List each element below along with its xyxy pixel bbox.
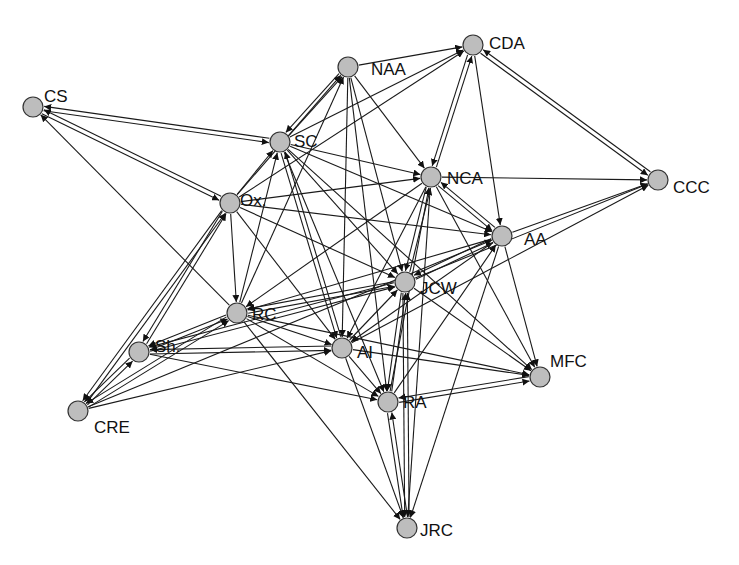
edge-cda-to-aa bbox=[475, 56, 501, 225]
edge-nca-to-cda bbox=[436, 56, 471, 167]
node-circle-icon bbox=[648, 170, 668, 190]
node-circle-icon bbox=[270, 132, 290, 152]
node-circle-icon bbox=[395, 272, 415, 292]
edge-jrc-to-ra bbox=[392, 413, 408, 517]
node-circle-icon bbox=[68, 401, 88, 421]
node-label: AI bbox=[357, 343, 373, 362]
node-circle-icon bbox=[378, 392, 398, 412]
node-label: NAA bbox=[371, 60, 407, 79]
edge-naa-to-jcw bbox=[351, 78, 402, 272]
node-label: JCW bbox=[420, 279, 457, 298]
node-cs: CS bbox=[23, 87, 68, 117]
node-circle-icon bbox=[421, 167, 441, 187]
node-label: RC bbox=[252, 305, 277, 324]
node-circle-icon bbox=[227, 303, 247, 323]
node-label: CDA bbox=[489, 34, 526, 53]
node-circle-icon bbox=[530, 367, 550, 387]
edge-cda-to-ccc bbox=[481, 53, 648, 175]
node-label: JRC bbox=[420, 521, 453, 540]
node-circle-icon bbox=[463, 35, 483, 55]
edge-naa-to-sc bbox=[286, 74, 339, 133]
node-cda: CDA bbox=[463, 34, 526, 55]
node-circle-icon bbox=[129, 342, 149, 362]
edge-aa-to-nca bbox=[441, 182, 495, 227]
edge-nca-to-aa bbox=[438, 186, 492, 231]
edge-ai-to-jrc bbox=[346, 358, 404, 517]
edge-aa-to-ccc bbox=[512, 184, 647, 233]
edge-cre-to-ox bbox=[86, 213, 225, 403]
node-nca: NCA bbox=[421, 167, 484, 188]
node-circle-icon bbox=[220, 193, 240, 213]
edge-sc-to-mfc bbox=[288, 149, 532, 369]
node-label: RA bbox=[403, 393, 427, 412]
node-sc: SC bbox=[270, 132, 318, 152]
edge-cda-to-nca bbox=[432, 55, 467, 166]
node-label: AA bbox=[524, 230, 547, 249]
network-diagram: CSSCNAACDAOx.NCACCCAAJCWRCSh.AIMFCCRERAJ… bbox=[0, 0, 739, 565]
node-naa: NAA bbox=[338, 57, 407, 79]
node-circle-icon bbox=[492, 226, 512, 246]
edge-sc-to-cs bbox=[44, 106, 269, 138]
node-jcw: JCW bbox=[395, 272, 457, 298]
node-ai: AI bbox=[332, 338, 373, 362]
edge-rc-to-cs bbox=[41, 115, 230, 305]
node-ox: Ox. bbox=[220, 191, 266, 213]
node-label: SC bbox=[294, 132, 318, 151]
edge-rc-to-cre bbox=[86, 317, 226, 404]
node-rc: RC bbox=[227, 303, 277, 324]
edge-ox-to-sc bbox=[237, 151, 273, 195]
node-ra: RA bbox=[378, 392, 427, 412]
edge-nca-to-mfc bbox=[436, 187, 534, 368]
node-jrc: JRC bbox=[397, 518, 453, 540]
edge-ox-to-cre bbox=[83, 211, 222, 401]
node-circle-icon bbox=[338, 57, 358, 77]
edge-ra-to-aa bbox=[394, 245, 496, 393]
node-ccc: CCC bbox=[648, 170, 710, 197]
edge-ox-to-naa bbox=[237, 75, 341, 194]
node-sh: Sh. bbox=[129, 337, 181, 362]
edge-rc-to-sc bbox=[240, 153, 278, 303]
edge-cs-to-ox bbox=[42, 114, 219, 200]
edge-naa-to-nca bbox=[355, 76, 425, 168]
edge-ai-to-mfc bbox=[353, 350, 529, 376]
edge-ra-to-jrc bbox=[388, 413, 404, 517]
node-label: CRE bbox=[94, 418, 130, 437]
node-label: Sh. bbox=[155, 337, 181, 356]
edge-layer bbox=[41, 47, 651, 520]
node-label: NCA bbox=[447, 169, 484, 188]
edge-aa-to-mfc bbox=[505, 247, 537, 367]
node-circle-icon bbox=[23, 97, 43, 117]
edge-jcw-to-mfc bbox=[414, 288, 531, 370]
node-circle-icon bbox=[332, 338, 352, 358]
node-label: Ox. bbox=[240, 191, 266, 210]
edge-sh-to-ra bbox=[150, 354, 377, 400]
node-label: CCC bbox=[673, 178, 710, 197]
edge-ox-to-rc bbox=[231, 214, 237, 302]
edge-ccc-to-cda bbox=[483, 50, 650, 172]
edge-rc-to-mfc bbox=[248, 315, 529, 374]
node-label: CS bbox=[44, 87, 68, 106]
edge-ai-to-ccc bbox=[352, 185, 649, 343]
node-label: MFC bbox=[550, 352, 587, 371]
edge-sc-to-aa bbox=[290, 146, 492, 231]
node-circle-icon bbox=[397, 518, 417, 538]
node-mfc: MFC bbox=[530, 352, 587, 387]
